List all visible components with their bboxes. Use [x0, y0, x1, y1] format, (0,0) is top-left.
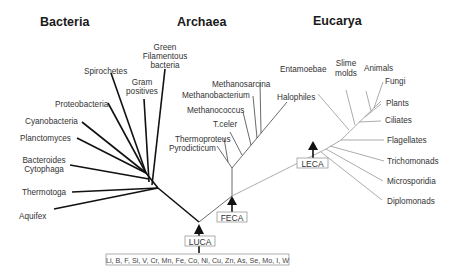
- taxon-methanosarcina: Methanosarcina: [212, 80, 271, 89]
- taxon-aquifex: Aquifex: [19, 212, 46, 221]
- taxon-thermoproteus: Thermoproteus: [175, 135, 231, 144]
- taxon-planctomyces: Planctomyces: [20, 134, 71, 143]
- arrow-up-icon: [308, 141, 318, 150]
- taxon-t-celer: T.celer: [213, 120, 237, 129]
- taxon-gram-positives-2: positives: [126, 87, 158, 96]
- taxon-methanococcus: Methanococcus: [187, 106, 244, 115]
- title-archaea: Archaea: [177, 15, 227, 29]
- taxon-animals: Animals: [364, 64, 393, 73]
- taxon-halophiles: Halophiles: [277, 93, 315, 102]
- arrow-up-icon: [194, 224, 204, 234]
- taxon-fungi: Fungi: [385, 77, 406, 86]
- taxon-methanobacterium: Methanobacterium: [182, 91, 250, 100]
- taxon-plants: Plants: [386, 99, 409, 108]
- title-eucarya: Eucarya: [313, 14, 363, 28]
- phylogenetic-tree: Bacteria Archaea Eucarya: [0, 0, 456, 278]
- luca-label: LUCA: [189, 237, 212, 247]
- eucarya-labels: Entamoebae Slime molds Animals Fungi Pla…: [280, 59, 439, 206]
- taxon-thermotoga: Thermotoga: [22, 188, 67, 197]
- arrow-up-icon: [227, 196, 237, 205]
- taxon-cytophaga: Cytophaga: [24, 165, 64, 174]
- feca-label: FECA: [221, 213, 244, 223]
- taxon-entamoebae: Entamoebae: [280, 65, 327, 74]
- leca-label: LECA: [301, 159, 324, 169]
- trace-elements: Li, B, F, Si, V, Cr, Mn, Fe, Co, Ni, Cu,…: [106, 254, 289, 265]
- taxon-proteobacteria: Proteobacteria: [55, 100, 109, 109]
- taxon-cyanobacteria: Cyanobacteria: [25, 117, 78, 126]
- feca-marker: FECA: [217, 196, 247, 223]
- elements-list: Li, B, F, Si, V, Cr, Mn, Fe, Co, Ni, Cu,…: [106, 256, 289, 265]
- title-bacteria: Bacteria: [40, 15, 90, 29]
- taxon-bacteroides: Bacteroides: [22, 156, 65, 165]
- taxon-flagellates: Flagellates: [387, 136, 427, 145]
- luca-marker: LUCA: [185, 224, 215, 253]
- taxon-ciliates: Ciliates: [385, 116, 412, 125]
- taxon-slime-molds-1: Slime: [336, 59, 357, 68]
- bacteria-labels: Green Filamentous bacteria Spirochetes G…: [19, 43, 187, 221]
- taxon-spirochetes: Spirochetes: [84, 67, 127, 76]
- taxon-microsporidia: Microsporidia: [387, 177, 436, 186]
- taxon-slime-molds-2: molds: [335, 69, 357, 78]
- taxon-trichomonads: Trichomonads: [387, 157, 439, 166]
- archaea-labels: Methanosarcina Methanobacterium Halophil…: [169, 80, 315, 153]
- taxon-diplomonads: Diplomonads: [387, 197, 435, 206]
- taxon-green-filamentous-2: Filamentous: [143, 52, 188, 61]
- taxon-green-filamentous-3: bacteria: [150, 61, 180, 70]
- taxon-green-filamentous-1: Green: [154, 43, 177, 52]
- taxon-pyrodicticum: Pyrodicticum: [169, 144, 216, 153]
- leca-marker: LECA: [297, 141, 328, 169]
- taxon-gram-positives-1: Gram: [132, 78, 153, 87]
